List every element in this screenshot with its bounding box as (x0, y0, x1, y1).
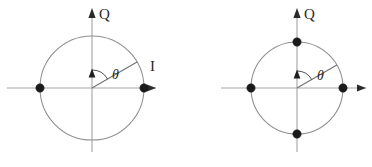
qpsk-point-180deg (247, 84, 255, 92)
qpsk-theta-label: θ (317, 68, 324, 83)
bpsk-point-0deg (140, 84, 148, 92)
qpsk-point-0deg (339, 84, 347, 92)
qpsk-point-90deg (293, 38, 301, 46)
bpsk-constellation-panel: Q I θ (7, 6, 156, 152)
bpsk-q-axis-arrowhead (88, 8, 95, 18)
qpsk-i-axis-arrowhead (357, 84, 366, 91)
qpsk-q-axis-label: Q (304, 6, 315, 22)
bpsk-q-axis-label: Q (99, 6, 110, 22)
figure-container: Q I θ Q θ (0, 0, 372, 167)
bpsk-i-axis-label: I (150, 58, 155, 74)
bpsk-point-180deg (36, 84, 44, 92)
bpsk-theta-label: θ (112, 67, 119, 82)
qpsk-constellation-panel: Q θ (221, 6, 366, 152)
constellation-figure: Q I θ Q θ (0, 0, 372, 167)
qpsk-point-270deg (293, 130, 301, 138)
bpsk-angle-arc (92, 70, 108, 79)
qpsk-q-axis-arrowhead (293, 8, 300, 18)
caption-strip (0, 156, 372, 167)
